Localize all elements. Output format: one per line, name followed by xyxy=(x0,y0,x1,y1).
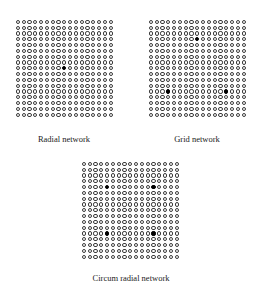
node-grid-radial xyxy=(15,19,114,118)
caption-circum-radial-network: Circum radial network xyxy=(93,273,170,283)
caption-grid-network: Grid network xyxy=(174,134,220,144)
caption-radial-network: Radial network xyxy=(38,134,90,144)
network-node-icon xyxy=(174,254,180,260)
node-grid-grid xyxy=(148,19,247,118)
node-grid-circum-radial xyxy=(81,161,180,260)
network-node-icon xyxy=(108,112,114,118)
network-node-icon xyxy=(241,112,247,118)
